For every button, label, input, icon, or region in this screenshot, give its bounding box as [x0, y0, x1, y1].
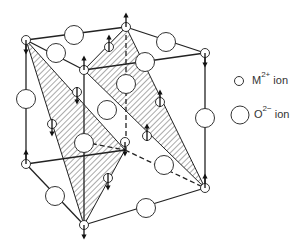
legend-oxygen-ion-symbol-text: O [254, 108, 263, 120]
crystal-structure-diagram [0, 0, 302, 250]
legend-metal-ion-label: M2+ ion [252, 74, 288, 86]
legend-metal-ion-suffix: ion [273, 74, 288, 86]
legend-metal-ion-symbol [235, 77, 244, 86]
legend-oxygen-ion-symbol [231, 106, 249, 124]
legend-metal-ion-symbol-text: M [252, 74, 261, 86]
legend-metal-ion-charge: 2+ [261, 70, 270, 79]
legend-oxygen-ion-label: O2− ion [254, 108, 289, 120]
legend-oxygen-ion-charge: 2− [263, 104, 272, 113]
legend-oxygen-ion-suffix: ion [275, 108, 290, 120]
